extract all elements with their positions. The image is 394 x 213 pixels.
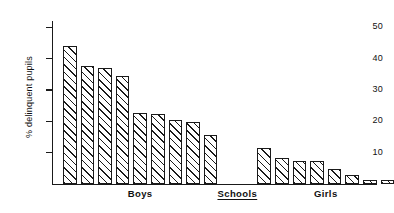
bar-B5	[133, 113, 147, 184]
bar-B3	[98, 68, 112, 184]
bar-B9	[204, 135, 218, 184]
bar-G3	[293, 161, 307, 185]
bar-B2	[81, 66, 95, 184]
group-label-girls: Girls	[314, 188, 338, 199]
bar-B4	[116, 76, 130, 184]
bar-G5	[328, 169, 342, 184]
bar-G7	[363, 180, 377, 184]
plot-area	[52, 21, 377, 184]
bar-G4	[310, 161, 324, 184]
bar-G2	[275, 158, 289, 184]
bar-B7	[169, 120, 183, 184]
bar-B8	[186, 122, 200, 184]
bar-B1	[63, 46, 77, 184]
y-axis-label: % delinquent pupils	[24, 22, 34, 172]
x-axis-line	[52, 184, 377, 185]
bar-G8	[381, 180, 394, 184]
bar-G1	[257, 148, 271, 184]
group-label-boys: Boys	[128, 188, 153, 199]
x-axis-title: Schools	[217, 188, 257, 199]
bar-G6	[345, 175, 359, 184]
bar-B6	[151, 114, 165, 184]
